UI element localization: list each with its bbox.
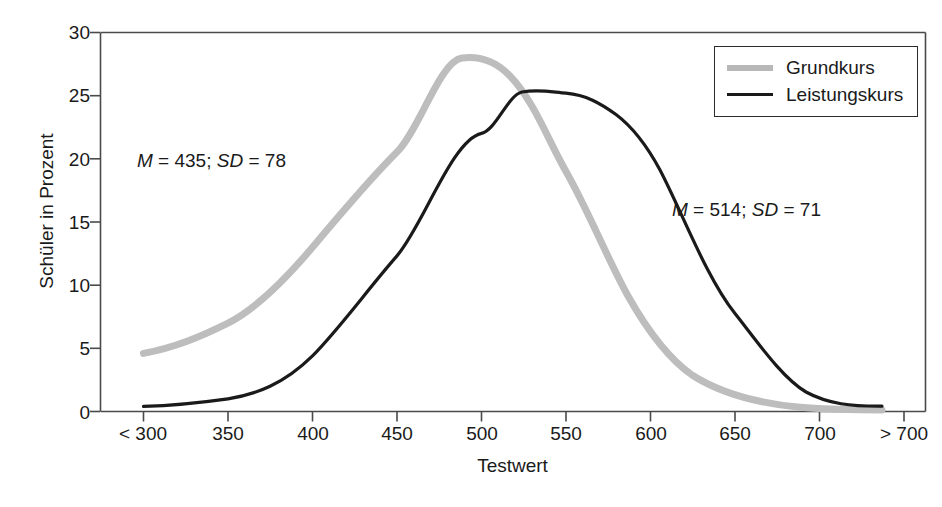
x-tick-gt700: > 700 [844, 424, 942, 444]
annotation-grundkurs-sd-symbol: SD [217, 150, 243, 171]
legend-item-grundkurs: Grundkurs [727, 54, 903, 81]
x-axis-title: Testwert [100, 455, 925, 477]
legend-label-grundkurs: Grundkurs [786, 57, 875, 79]
legend-swatch-grundkurs-icon [727, 65, 773, 71]
annotation-leistungskurs-sd-symbol: SD [752, 199, 778, 220]
annotation-grundkurs-sd-value: = 78 [243, 150, 286, 171]
annotation-grundkurs-stats: M = 435; SD = 78 [137, 150, 286, 172]
legend-label-leistungskurs: Leistungskurs [786, 84, 903, 106]
legend-swatch-leistungskurs-icon [727, 93, 773, 96]
legend-item-leistungskurs: Leistungskurs [727, 81, 903, 108]
chart-legend: Grundkurs Leistungskurs [714, 46, 918, 117]
annotation-grundkurs-mean-symbol: M [137, 150, 153, 171]
y-axis-title: Schüler in Prozent [36, 71, 58, 351]
annotation-leistungskurs-mean-value: = 514; [688, 199, 752, 220]
figure-container: 0 5 10 15 20 25 30 < 300 350 400 450 500… [0, 0, 942, 507]
annotation-leistungskurs-sd-value: = 71 [778, 199, 821, 220]
annotation-leistungskurs-mean-symbol: M [672, 199, 688, 220]
annotation-grundkurs-mean-value: = 435; [153, 150, 217, 171]
annotation-leistungskurs-stats: M = 514; SD = 71 [672, 199, 821, 221]
